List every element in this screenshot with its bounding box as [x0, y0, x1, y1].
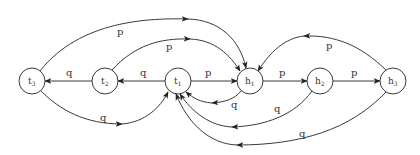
edge-label-h2-h3: p — [351, 67, 357, 78]
edge-t2-h1: p — [112, 39, 240, 71]
edge-label-h2-t1: q — [274, 103, 281, 114]
node-t1: t1 — [165, 68, 191, 94]
edge-label-t1-t2: q — [140, 67, 147, 78]
edge-label-h3-t1: q — [299, 128, 306, 139]
edge-label-t2-h1: p — [166, 41, 172, 52]
edge-t3-h1: p — [40, 19, 246, 71]
edge-t3-t1: q — [41, 91, 168, 124]
node-t3: t3 — [19, 68, 45, 94]
edge-h3-t1: q — [176, 92, 386, 145]
edge-h3-h1: p — [258, 36, 386, 71]
edge-h2-t1: q — [180, 91, 312, 127]
edge-label-h1-h2: p — [279, 67, 285, 78]
edge-t1-t2: q — [118, 67, 165, 81]
edge-h1-t1: q — [186, 91, 241, 110]
edge-t2-t3: q — [45, 67, 92, 81]
edge-label-t3-h1: p — [117, 26, 123, 37]
edge-label-h3-h1: p — [326, 40, 332, 51]
node-h1: h1 — [237, 68, 263, 94]
node-h2: h2 — [307, 68, 333, 94]
state-diagram: q q p p p p p p q q — [0, 0, 420, 155]
edge-label-t1-h1: p — [205, 67, 211, 78]
node-t2: t2 — [92, 68, 118, 94]
edge-label-t2-t3: q — [66, 67, 73, 78]
edge-label-t3-t1: q — [100, 112, 107, 123]
node-h3: h3 — [380, 68, 406, 94]
edge-h2-h3: p — [333, 67, 380, 81]
edge-h1-h2: p — [263, 67, 307, 81]
edge-label-h1-t1: q — [231, 99, 238, 110]
edge-t1-h1: p — [191, 67, 237, 81]
